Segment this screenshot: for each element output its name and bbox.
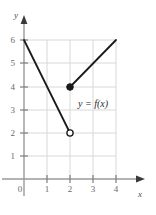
ytick-label-1: 1	[11, 151, 16, 161]
y-axis-label: y	[13, 10, 18, 20]
xtick-label-1: 1	[45, 184, 50, 194]
open-circle-marker	[67, 130, 73, 136]
x-axis-label: x	[137, 189, 142, 199]
ytick-label-5: 5	[11, 58, 16, 68]
function-graph-figure: 0 1 2 3 4 6 5 4 3 2 1 x y y = f(x)	[0, 0, 156, 215]
xtick-label-0: 0	[18, 184, 23, 194]
ytick-label-3: 3	[11, 105, 16, 115]
xtick-label-3: 3	[91, 184, 96, 194]
plot-svg: 0 1 2 3 4 6 5 4 3 2 1 x y y = f(x)	[0, 0, 156, 215]
xtick-label-2: 2	[68, 184, 73, 194]
y-tick-labels: 6 5 4 3 2 1	[11, 35, 16, 161]
grid-lines	[24, 40, 116, 179]
filled-dot-marker	[67, 84, 74, 91]
ytick-label-4: 4	[11, 82, 16, 92]
axes	[2, 15, 145, 196]
xtick-label-4: 4	[114, 184, 119, 194]
y-axis-arrow-icon	[21, 15, 28, 24]
ytick-label-6: 6	[11, 35, 16, 45]
x-axis-arrow-icon	[136, 176, 145, 183]
x-tick-labels: 0 1 2 3 4	[18, 184, 119, 194]
function-label: y = f(x)	[77, 98, 109, 110]
ytick-label-2: 2	[11, 128, 16, 138]
